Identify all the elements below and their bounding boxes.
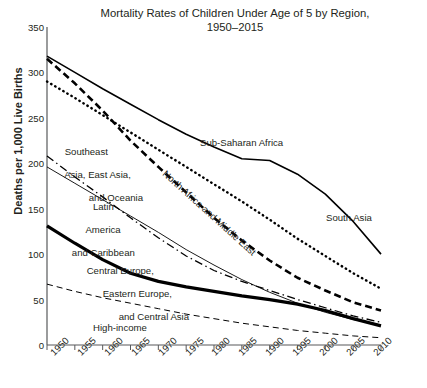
annotation-southeast-asia-line1: Southeast: [65, 146, 108, 157]
annotation-south-asia: South Asia: [326, 212, 372, 224]
annotation-central-europe-line2: Eastern Europe,: [87, 288, 172, 300]
annotation-latin-america-line2: America: [85, 224, 120, 235]
annotation-southeast-asia-line2: Asia, East Asia,: [64, 169, 131, 180]
x-tick-marks: [47, 345, 381, 350]
chart-container: Mortality Rates of Children Under Age of…: [0, 0, 427, 388]
annotation-latin-america-line1: Latin: [93, 201, 114, 212]
annotation-central-europe-line3: and Central Asia: [87, 311, 189, 323]
annotation-central-europe-line1: Central Europe,: [87, 265, 154, 276]
annotation-high-income: High-income: [93, 322, 147, 334]
annotation-sub-saharan-africa: Sub-Saharan Africa: [200, 137, 283, 149]
